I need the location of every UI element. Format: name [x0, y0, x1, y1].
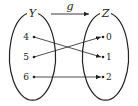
codomain-point-1 — [102, 56, 105, 59]
set-y-ellipse — [9, 14, 55, 101]
codomain-element-0: 0 — [106, 32, 112, 42]
set-z-label: Z — [101, 7, 110, 20]
codomain-element-1: 1 — [106, 52, 112, 62]
codomain-point-2 — [102, 76, 105, 79]
codomain-element-2: 2 — [106, 72, 112, 82]
set-y-label: Y — [29, 7, 38, 20]
function-label: g — [66, 0, 73, 13]
mapping-diagram: Y Z g 4 5 6 0 1 2 — [0, 0, 138, 106]
domain-element-5: 5 — [23, 52, 29, 62]
codomain-point-0 — [102, 36, 105, 39]
domain-element-4: 4 — [23, 32, 29, 42]
mapping-svg: Y Z g 4 5 6 0 1 2 — [0, 0, 138, 106]
domain-element-6: 6 — [23, 72, 29, 82]
